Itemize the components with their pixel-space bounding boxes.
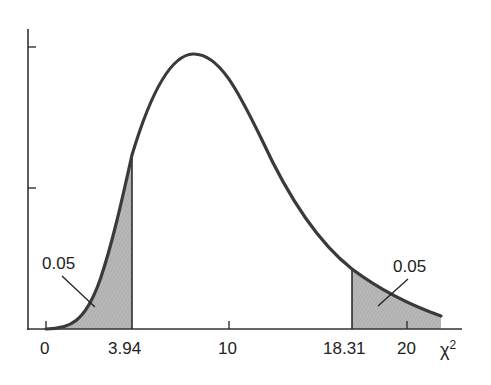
x-axis-label: χ2 [440,338,456,361]
x-tick-label-3.94: 3.94 [108,339,141,359]
chi-square-chart [0,0,491,385]
x-tick-label-18.31: 18.31 [323,339,366,359]
left-tail-leader [62,276,95,307]
x-tick-label-10: 10 [218,339,237,359]
right-tail-label: 0.05 [393,257,426,277]
left-tail-label: 0.05 [42,254,75,274]
x-tick-label-20: 20 [397,339,416,359]
chi-superscript: 2 [449,338,456,352]
x-tick-label-0: 0 [40,339,49,359]
